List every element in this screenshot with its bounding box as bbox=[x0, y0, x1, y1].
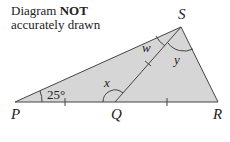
angle-w: w bbox=[142, 40, 151, 56]
vertex-R: R bbox=[213, 106, 222, 123]
angle-y: y bbox=[174, 52, 180, 68]
angle-P-value: 25° bbox=[47, 87, 65, 103]
vertex-S: S bbox=[178, 6, 186, 23]
triangle-PRS bbox=[15, 27, 218, 102]
vertex-P: P bbox=[11, 106, 20, 123]
angle-x: x bbox=[104, 75, 110, 91]
vertex-Q: Q bbox=[111, 106, 122, 123]
